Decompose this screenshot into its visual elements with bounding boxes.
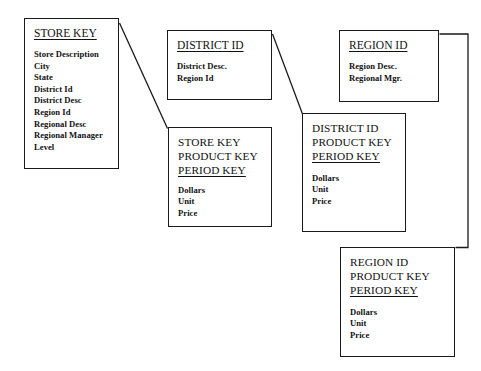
fact-key-primary: PERIOD KEY bbox=[178, 163, 271, 177]
entity-district-fact-measures: Dollars Unit Price bbox=[312, 173, 405, 208]
fact-key: PRODUCT KEY bbox=[312, 135, 405, 149]
attribute: State bbox=[34, 72, 118, 84]
measure: Unit bbox=[350, 318, 454, 330]
measure: Dollars bbox=[178, 185, 271, 197]
entity-district-id-body: DISTRICT ID District Desc. Region Id bbox=[168, 31, 271, 89]
attribute: Region Id bbox=[177, 73, 271, 85]
entity-store-key-attributes: Store Description City State District Id… bbox=[34, 49, 118, 153]
entity-region-fact[interactable]: REGION ID PRODUCT KEY PERIOD KEY Dollars… bbox=[340, 247, 455, 357]
entity-store-key-body: STORE KEY Store Description City State D… bbox=[25, 19, 118, 158]
attribute: District Id bbox=[34, 84, 118, 96]
entity-store-fact-body: STORE KEY PRODUCT KEY PERIOD KEY Dollars… bbox=[169, 128, 271, 224]
attribute: Region Id bbox=[34, 107, 118, 119]
entity-store-key[interactable]: STORE KEY Store Description City State D… bbox=[24, 18, 119, 169]
connector-district-to-district-fact bbox=[273, 34, 303, 114]
measure: Dollars bbox=[312, 173, 405, 185]
entity-district-id[interactable]: DISTRICT ID District Desc. Region Id bbox=[167, 30, 272, 100]
attribute: Regional Desc bbox=[34, 119, 118, 131]
entity-store-fact[interactable]: STORE KEY PRODUCT KEY PERIOD KEY Dollars… bbox=[168, 127, 272, 227]
connector-region-to-region-fact bbox=[440, 34, 469, 248]
attribute: District Desc. bbox=[177, 61, 271, 73]
measure: Price bbox=[350, 330, 454, 342]
entity-store-fact-measures: Dollars Unit Price bbox=[178, 185, 271, 220]
entity-region-fact-keys: REGION ID PRODUCT KEY PERIOD KEY bbox=[350, 255, 454, 298]
entity-region-id-attributes: Region Desc. Regional Mgr. bbox=[349, 61, 438, 84]
fact-key-primary: PERIOD KEY bbox=[312, 149, 405, 163]
fact-key: PRODUCT KEY bbox=[178, 149, 271, 163]
fact-key-primary: PERIOD KEY bbox=[350, 283, 454, 297]
entity-district-fact[interactable]: DISTRICT ID PRODUCT KEY PERIOD KEY Dolla… bbox=[302, 113, 406, 232]
measure: Price bbox=[178, 208, 271, 220]
entity-district-id-attributes: District Desc. Region Id bbox=[177, 61, 271, 84]
attribute: Region Desc. bbox=[349, 61, 438, 73]
attribute: Level bbox=[34, 142, 118, 154]
measure: Unit bbox=[178, 196, 271, 208]
entity-district-id-title: DISTRICT ID bbox=[177, 38, 271, 52]
entity-store-fact-keys: STORE KEY PRODUCT KEY PERIOD KEY bbox=[178, 135, 271, 178]
entity-region-id-body: REGION ID Region Desc. Regional Mgr. bbox=[340, 31, 438, 89]
attribute: District Desc bbox=[34, 95, 118, 107]
measure: Price bbox=[312, 196, 405, 208]
attribute: City bbox=[34, 61, 118, 73]
entity-region-fact-body: REGION ID PRODUCT KEY PERIOD KEY Dollars… bbox=[341, 248, 454, 346]
fact-key: PRODUCT KEY bbox=[350, 269, 454, 283]
diagram-canvas: STORE KEY Store Description City State D… bbox=[0, 0, 481, 371]
entity-region-fact-measures: Dollars Unit Price bbox=[350, 307, 454, 342]
fact-key: REGION ID bbox=[350, 255, 454, 269]
entity-district-fact-body: DISTRICT ID PRODUCT KEY PERIOD KEY Dolla… bbox=[303, 114, 405, 212]
connector-store-to-store-fact bbox=[120, 23, 168, 129]
fact-key: DISTRICT ID bbox=[312, 121, 405, 135]
entity-region-id[interactable]: REGION ID Region Desc. Regional Mgr. bbox=[339, 30, 439, 102]
entity-district-fact-keys: DISTRICT ID PRODUCT KEY PERIOD KEY bbox=[312, 121, 405, 164]
attribute: Regional Mgr. bbox=[349, 73, 438, 85]
attribute: Store Description bbox=[34, 49, 118, 61]
entity-region-id-title: REGION ID bbox=[349, 38, 438, 52]
entity-store-key-title: STORE KEY bbox=[34, 26, 118, 40]
attribute: Regional Manager bbox=[34, 130, 118, 142]
fact-key: STORE KEY bbox=[178, 135, 271, 149]
measure: Dollars bbox=[350, 307, 454, 319]
measure: Unit bbox=[312, 184, 405, 196]
